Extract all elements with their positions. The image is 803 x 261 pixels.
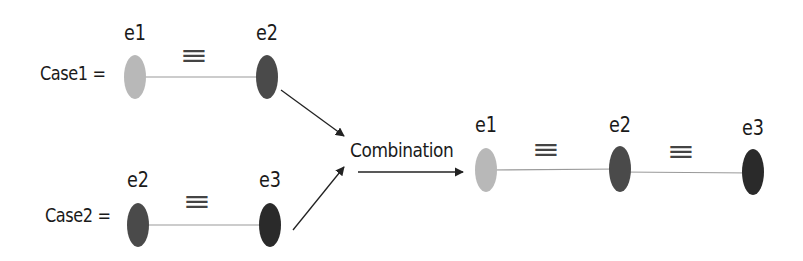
case2-label: Case2 = [45,204,110,226]
case2-node-e2 [127,203,149,247]
result-node-e2 [609,146,631,192]
case2-node-e3-label: e3 [254,167,286,192]
combination-label: Combination [350,138,453,162]
case1-node-e2 [256,55,278,99]
arrow-case1-to-combination [281,90,344,136]
case1-node-e1-label: e1 [119,20,151,45]
case2-node-e3 [259,203,281,247]
result-node-e3-label: e3 [737,115,769,140]
case1-node-e1 [124,55,146,99]
result-equivalence-symbol-1: ≡ [532,136,560,162]
result-node-e2-label: e2 [604,112,636,137]
result-equivalence-symbol-2: ≡ [667,138,695,164]
result-node-e1-label: e1 [470,112,502,137]
arrow-case2-to-combination [293,167,344,230]
result-node-e3 [742,149,764,195]
case1-label: Case1 = [40,62,105,84]
case2-equivalence-symbol: ≡ [183,188,211,214]
case2-node-e2-label: e2 [122,167,154,192]
result-node-e1 [475,148,497,192]
case1-node-e2-label: e2 [251,20,283,45]
case1-equivalence-symbol: ≡ [180,42,208,68]
result-edge-2 [620,172,753,173]
result-edge-1 [486,169,620,170]
